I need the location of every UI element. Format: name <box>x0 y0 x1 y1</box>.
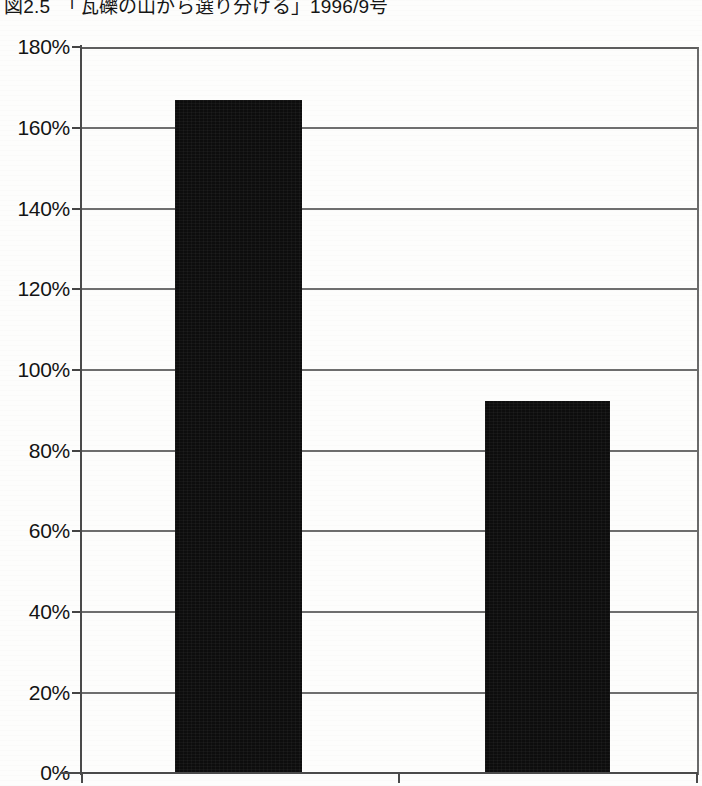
chart-title: 図2.5 「瓦礫の山から選り分ける」1996/9号 <box>4 0 698 20</box>
y-axis-label-40: 40% <box>2 601 70 622</box>
x-tick-2 <box>696 773 698 783</box>
y-axis-label-100: 100% <box>2 359 70 380</box>
y-axis-line <box>80 45 82 775</box>
x-tick-1 <box>398 773 400 783</box>
y-axis-label-60: 60% <box>2 520 70 541</box>
y-axis-labels: 180% 160% 140% 120% 100% 80% 60% 40% 20%… <box>0 0 70 786</box>
y-axis-label-20: 20% <box>2 682 70 703</box>
bar-series-1-item-1 <box>175 100 302 773</box>
y-axis-label-180: 180% <box>2 36 70 57</box>
y-axis-label-80: 80% <box>2 440 70 461</box>
bar-series-1-item-2 <box>485 401 610 773</box>
y-axis-label-140: 140% <box>2 198 70 219</box>
y-axis-label-120: 120% <box>2 278 70 299</box>
figure-canvas: 図2.5 「瓦礫の山から選り分ける」1996/9号 180% 160% 140%… <box>0 0 702 786</box>
x-axis-line <box>60 772 698 774</box>
y-axis-label-160: 160% <box>2 117 70 138</box>
x-tick-0 <box>81 773 83 783</box>
